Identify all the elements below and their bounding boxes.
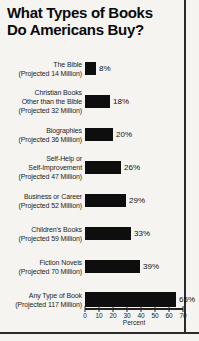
chart-row: Fiction Novels (Projected 70 Million) 39… [0,250,199,283]
value-label: 18% [113,97,129,106]
category-label: Business or Career (Projected 52 Million… [0,192,85,210]
category-label: Children's Books (Projected 59 Million) [0,225,85,243]
category-label: The Bible (Projected 14 Million) [0,60,85,78]
x-axis: 0 10 20 30 40 50 60 70 Percent [85,308,183,326]
bar [85,95,110,108]
bar [85,194,126,207]
bar [85,227,131,240]
chart-row: Biographies (Projected 36 Million) 20% [0,118,199,151]
bar-chart: The Bible (Projected 14 Million) 8% Chri… [0,52,199,316]
chart-row: Christian Books Other than the Bible (Pr… [0,85,199,118]
bottom-rule [0,332,199,334]
category-label: Fiction Novels (Projected 70 Million) [0,258,85,276]
scanned-chart-page: What Types of Books Do Americans Buy? Th… [0,0,199,341]
tick-label: 10 [95,312,102,319]
bar [85,128,113,141]
x-axis-tick-labels: 0 10 20 30 40 50 60 70 [85,310,183,319]
tick-label: 50 [151,312,158,319]
chart-title-line2: Do Americans Buy? [7,22,153,39]
chart-title-line1: What Types of Books [7,5,153,22]
category-label: Any Type of Book (Projected 117 Million) [0,291,85,309]
bar [85,161,121,174]
tick-label: 0 [83,312,87,319]
value-label: 20% [116,130,132,139]
tick-label: 60 [165,312,172,319]
bar [85,62,96,75]
value-label: 8% [99,64,111,73]
chart-title: What Types of Books Do Americans Buy? [7,5,153,38]
tick-label: 20 [109,312,116,319]
x-axis-title: Percent [85,319,183,326]
category-label: Biographies (Projected 36 Million) [0,126,85,144]
value-label: 65% [179,295,195,304]
chart-row: The Bible (Projected 14 Million) 8% [0,52,199,85]
bar [85,260,140,273]
chart-row: Children's Books (Projected 59 Million) … [0,217,199,250]
value-label: 33% [134,229,150,238]
value-label: 29% [129,196,145,205]
tick-label: 70 [179,312,186,319]
value-label: 39% [143,262,159,271]
chart-row: Business or Career (Projected 52 Million… [0,184,199,217]
chart-row: Self-Help or Self-Improvement (Projected… [0,151,199,184]
tick-label: 30 [123,312,130,319]
value-label: 26% [124,163,140,172]
tick-label: 40 [137,312,144,319]
category-label: Self-Help or Self-Improvement (Projected… [0,154,85,181]
category-label: Christian Books Other than the Bible (Pr… [0,88,85,115]
